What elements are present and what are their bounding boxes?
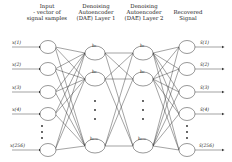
hidden1-label-2: h₂ bbox=[92, 69, 97, 74]
input-label-1: x(1) bbox=[12, 40, 21, 45]
hidden1-label-100: h₁₀₀ bbox=[90, 136, 98, 141]
hidden2-to-output-edges bbox=[153, 47, 179, 150]
hidden1-node-1 bbox=[85, 46, 105, 60]
output-node-3 bbox=[179, 86, 195, 99]
hidden2-label-100: h₁₀₀ bbox=[138, 136, 146, 141]
input-node-2 bbox=[40, 63, 56, 76]
input-node-256 bbox=[40, 144, 56, 157]
hidden1-node-2 bbox=[85, 72, 105, 86]
hidden1-label-1: h₁ bbox=[92, 43, 97, 48]
hidden2-label-2: h₂ bbox=[140, 69, 145, 74]
output-label-1: x̂(1) bbox=[200, 40, 209, 45]
output-layer-nodes bbox=[179, 41, 195, 157]
network-graph bbox=[0, 0, 232, 162]
output-node-1 bbox=[179, 41, 195, 54]
output-label-3: x̂(3) bbox=[200, 85, 209, 90]
output-node-4 bbox=[179, 108, 195, 121]
hidden2-node-1 bbox=[133, 46, 153, 60]
hidden1-to-hidden2-edges bbox=[105, 53, 133, 146]
output-label-2: x̂(2) bbox=[200, 62, 209, 67]
autoencoder-diagram: Input - vector of signal samples Denoisi… bbox=[0, 0, 232, 162]
output-node-2 bbox=[179, 63, 195, 76]
input-label-2: x(2) bbox=[12, 62, 21, 67]
output-label-256: x̂(256) bbox=[199, 143, 214, 148]
input-label-3: x(3) bbox=[12, 85, 21, 90]
hidden2-node-2 bbox=[133, 72, 153, 86]
input-label-4: x(4) bbox=[12, 107, 21, 112]
input-layer-nodes bbox=[40, 41, 56, 157]
input-to-hidden1-edges bbox=[55, 47, 85, 150]
output-node-256 bbox=[179, 144, 195, 157]
hidden2-label-1: h₁ bbox=[140, 43, 145, 48]
arrowheads bbox=[39, 46, 225, 151]
output-label-4: x̂(4) bbox=[200, 107, 209, 112]
hidden2-node-100 bbox=[133, 139, 153, 153]
input-label-256: x(256) bbox=[10, 143, 25, 148]
input-node-4 bbox=[40, 108, 56, 121]
connections bbox=[12, 47, 222, 150]
input-node-3 bbox=[40, 86, 56, 99]
hidden1-node-100 bbox=[85, 139, 105, 153]
input-node-1 bbox=[40, 41, 56, 54]
